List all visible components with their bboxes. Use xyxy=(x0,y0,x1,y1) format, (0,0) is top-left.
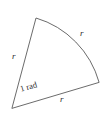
sector-outline xyxy=(12,18,99,108)
radius-label-arc: r xyxy=(80,29,84,38)
radius-label-bottom: r xyxy=(60,95,64,104)
sector-drawing xyxy=(0,0,111,115)
radius-label-left: r xyxy=(12,52,16,61)
sector-figure: r r r 1 rad xyxy=(0,0,111,115)
